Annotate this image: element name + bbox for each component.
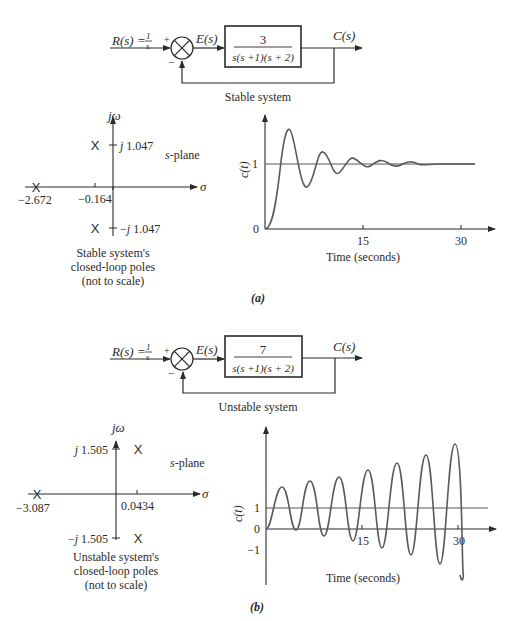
y-axis-label: c(t) <box>231 505 245 522</box>
s-plane-b: jω σ s-plane X X X j 1.505 −j 1.505 −3.0… <box>16 420 209 592</box>
real-part-label: 0.0434 <box>121 499 154 513</box>
ytick-1: 1 <box>254 501 260 515</box>
jw-axis-label: jω <box>106 108 121 123</box>
poles-caption-line3: (not to scale) <box>82 274 145 288</box>
y-axis-label: c(t) <box>237 161 251 178</box>
panel-a-label: (a) <box>251 291 265 305</box>
pole-upper-label: j 1.505 <box>73 443 108 457</box>
ytick-1: 1 <box>252 157 258 171</box>
input-label: R(s) = <box>111 344 146 359</box>
ytick-minus1: −1 <box>247 543 260 557</box>
panel-b-label: (b) <box>250 600 264 614</box>
tf-denominator: s(s +1)(s + 2) <box>232 362 294 375</box>
plus-sign: + <box>164 34 170 45</box>
s-plane-a: jω σ s-plane X X X j 1.047 −j 1.047 −2.6… <box>18 108 207 288</box>
pole-x-icon: X <box>91 221 100 236</box>
pole-x-icon: X <box>91 138 100 153</box>
pole-x-icon: X <box>134 442 143 457</box>
output-label: C(s) <box>333 339 355 354</box>
pole-x-icon: X <box>134 531 143 546</box>
input-frac-den: s <box>146 352 150 362</box>
xtick-30: 30 <box>453 534 465 548</box>
plus-sign: + <box>164 345 170 356</box>
summing-junction-icon <box>171 37 193 59</box>
poles-caption-line1: Stable system's <box>76 246 149 260</box>
ytick-0: 0 <box>253 222 259 236</box>
pole-lower-label: −j 1.047 <box>120 222 160 236</box>
response-curve <box>266 444 463 580</box>
real-pole-label: −2.672 <box>18 193 52 207</box>
sigma-axis-label: σ <box>200 179 207 194</box>
tf-denominator: s(s +1)(s + 2) <box>232 51 294 64</box>
block-diagram-a: R(s) = 1 s + − E(s) 3 s(s +1)(s + 2) C(s… <box>110 26 362 104</box>
poles-caption-line3: (not to scale) <box>85 578 148 592</box>
x-axis-label: Time (seconds) <box>326 571 400 585</box>
system-caption: Stable system <box>225 90 292 104</box>
jw-axis-label: jω <box>110 420 125 435</box>
error-label: E(s) <box>195 342 218 357</box>
input-frac-num: 1 <box>146 342 151 352</box>
step-response-b: 1 0 −1 15 30 c(t) Time (seconds) <box>231 427 496 585</box>
input-frac-num: 1 <box>146 31 151 41</box>
block-diagram-b: R(s) = 1 s + − E(s) 7 s(s +1)(s + 2) C(s… <box>110 336 362 414</box>
minus-sign: − <box>168 367 174 379</box>
s-plane-label: s-plane <box>165 148 200 162</box>
x-axis-label: Time (seconds) <box>326 250 400 264</box>
input-frac-den: s <box>146 41 150 51</box>
input-label: R(s) = <box>111 33 146 48</box>
output-label: C(s) <box>333 28 355 43</box>
sigma-axis-label: σ <box>202 486 209 501</box>
xtick-30: 30 <box>455 234 467 248</box>
minus-sign: − <box>168 56 174 68</box>
step-response-a: 1 0 15 30 c(t) Time (seconds) <box>237 115 495 264</box>
summing-junction-icon <box>171 348 193 370</box>
real-pole-label: −3.087 <box>16 501 50 515</box>
pole-upper-label: j 1.047 <box>118 139 153 153</box>
xtick-15: 15 <box>357 234 369 248</box>
system-caption: Unstable system <box>219 400 299 414</box>
xtick-15: 15 <box>357 534 369 548</box>
gain-numerator: 3 <box>260 32 267 47</box>
ytick-0: 0 <box>254 522 260 536</box>
response-curve <box>265 129 475 229</box>
s-plane-label: s-plane <box>170 456 205 470</box>
poles-caption-line2: closed-loop poles <box>71 260 156 274</box>
real-part-label: −0.164 <box>78 192 112 206</box>
error-label: E(s) <box>195 31 218 46</box>
pole-lower-label: −j 1.505 <box>68 532 108 546</box>
pole-x-icon: X <box>33 487 42 502</box>
poles-caption-line1: Unstable system's <box>73 550 159 564</box>
gain-numerator: 7 <box>260 342 267 357</box>
poles-caption-line2: closed-loop poles <box>74 564 159 578</box>
